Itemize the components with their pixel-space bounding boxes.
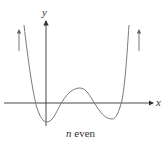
x-axis-label: x [156,97,161,108]
polynomial-graph [0,0,163,141]
caption-text: even [72,127,96,139]
figure-caption: n even [66,128,95,139]
y-axis-label: y [42,7,47,18]
polynomial-curve [24,25,129,122]
